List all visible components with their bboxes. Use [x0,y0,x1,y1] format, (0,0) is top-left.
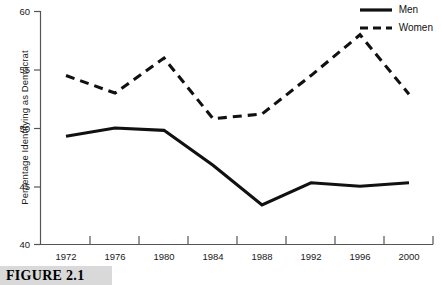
y-tick-label-40: 40 [10,239,30,250]
x-tick-label-1980: 1980 [144,251,184,262]
y-tick-label-60: 60 [10,6,30,17]
legend-entry-men: Men [359,3,433,16]
y-tick-label-55: 55 [10,64,30,75]
y-axis-ticks [34,12,41,245]
x-tick-label-1976: 1976 [95,251,135,262]
x-tick-label-1992: 1992 [291,251,331,262]
line-chart-plot [0,0,441,285]
legend-entry-women: Women [359,21,433,34]
x-tick-label-1988: 1988 [242,251,282,262]
x-tick-label-1972: 1972 [46,251,86,262]
x-tick-label-2000: 2000 [389,251,429,262]
x-tick-label-1984: 1984 [193,251,233,262]
legend-swatch-dashed-icon [359,22,393,34]
series-line-men [66,128,409,205]
series-line-women [66,35,409,119]
legend-label-men: Men [399,3,418,16]
figure-caption-band: FIGURE 2.1 [0,266,112,285]
chart-legend: Men Women [359,3,433,34]
y-tick-label-50: 50 [10,123,30,134]
y-tick-label-45: 45 [10,181,30,192]
legend-label-women: Women [399,21,433,34]
figure-caption-text: FIGURE 2.1 [0,268,84,284]
figure-container: Percentage Identifying as Democrat 60 55… [0,0,441,285]
x-axis-ticks [90,236,433,245]
x-tick-label-1996: 1996 [340,251,380,262]
legend-swatch-solid-icon [359,4,393,16]
